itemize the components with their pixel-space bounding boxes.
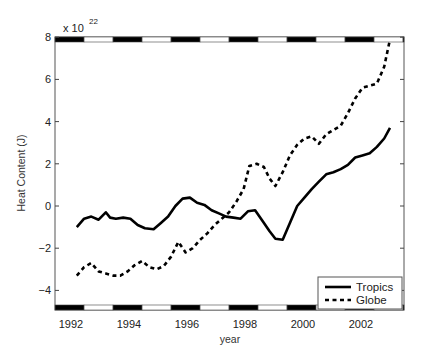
year-band-segment — [287, 305, 316, 310]
year-band-segment — [113, 305, 142, 310]
year-band-segment — [229, 305, 258, 310]
plot-area — [55, 37, 404, 310]
y-tick-label: 2 — [45, 158, 51, 170]
x-tick-label: 2002 — [349, 318, 373, 330]
y-tick-label: −4 — [38, 284, 51, 296]
year-band-segment — [84, 305, 113, 310]
plot-frame — [55, 37, 404, 310]
y-tick-label: 0 — [45, 200, 51, 212]
year-band-segment — [200, 305, 229, 310]
year-band-segment — [229, 37, 258, 42]
year-band-segment — [55, 305, 84, 310]
year-band-segment — [171, 305, 200, 310]
year-band-segment — [142, 305, 171, 310]
year-band-segment — [113, 37, 142, 42]
y-tick-label: 4 — [45, 116, 51, 128]
x-tick-label: 1998 — [233, 318, 257, 330]
top-year-band — [55, 37, 404, 42]
y-tick-label: 8 — [45, 31, 51, 43]
legend: Tropics Globe — [318, 277, 402, 309]
year-band-segment — [258, 305, 287, 310]
year-band-segment — [374, 37, 403, 42]
y-tick-label: −2 — [38, 242, 51, 254]
year-band-segment — [316, 37, 345, 42]
x-tick-label: 1994 — [117, 318, 141, 330]
year-band-segment — [258, 37, 287, 42]
x-axis-ticks: 199219941996199820002002 — [59, 318, 373, 330]
year-band-segment — [55, 37, 84, 42]
year-band-segment — [403, 37, 404, 42]
year-band-segment — [171, 37, 200, 42]
x-tick-label: 1996 — [175, 318, 199, 330]
year-band-segment — [142, 37, 171, 42]
y-exponent-power: 22 — [89, 17, 98, 26]
x-axis-label: year — [220, 333, 241, 345]
x-tick-label: 2000 — [291, 318, 315, 330]
year-band-segment — [287, 37, 316, 42]
year-band-segment — [345, 37, 374, 42]
heat-content-chart: −4−202468 199219941996199820002002 x 10 … — [0, 0, 425, 354]
year-band-segment — [84, 37, 113, 42]
year-band-segment — [403, 305, 404, 310]
y-exponent-base: x 10 — [63, 22, 84, 34]
y-axis-label: Heat Content (J) — [15, 134, 27, 211]
legend-globe-label: Globe — [356, 294, 387, 306]
legend-tropics-label: Tropics — [356, 281, 394, 293]
x-tick-label: 1992 — [59, 318, 83, 330]
y-tick-label: 6 — [45, 73, 51, 85]
year-band-segment — [200, 37, 229, 42]
